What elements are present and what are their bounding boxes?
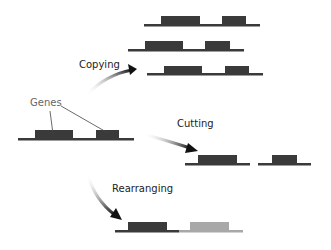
- rearranged-strand: [115, 222, 243, 233]
- cutting-arrow-icon: [143, 134, 198, 153]
- genes-label: Genes: [30, 97, 62, 108]
- cut-piece-2: [258, 155, 311, 166]
- copy-strand-2: [128, 41, 244, 52]
- gene-operations-diagram: [0, 0, 331, 250]
- source-strand: [18, 130, 134, 141]
- rearranging-label: Rearranging: [112, 183, 173, 194]
- copy-strand-1: [144, 16, 260, 27]
- genes-pointer-lines: [50, 106, 108, 134]
- cutting-label: Cutting: [177, 118, 214, 129]
- copy-strand-3: [147, 66, 263, 76]
- copying-label: Copying: [79, 59, 120, 70]
- cut-piece-1: [185, 155, 250, 166]
- rearranging-arrow-icon: [88, 175, 122, 220]
